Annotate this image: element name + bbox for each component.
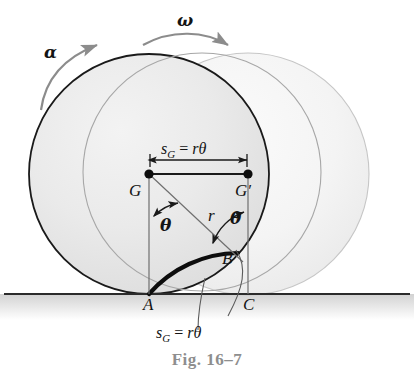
- omega-arrow: [143, 34, 228, 45]
- rolling-disk-diagram: [0, 0, 414, 382]
- label-theta-left: θ: [160, 217, 171, 234]
- label-radius-r: r: [208, 207, 215, 224]
- figure-container: α ω sG = rθ G G′ θ r θ B A C sG = rθ Fig…: [0, 0, 414, 382]
- ground-shadow: [0, 294, 414, 320]
- annotation-displacement-sG: sG = rθ: [161, 141, 206, 160]
- label-alpha: α: [44, 44, 57, 61]
- annotation-arclength-sG: sG = rθ: [156, 325, 201, 344]
- label-point-Gprime: G′: [235, 182, 251, 199]
- sG-value-bottom: rθ: [187, 324, 201, 341]
- label-theta-right: θ: [230, 210, 241, 227]
- label-point-C: C: [243, 296, 254, 313]
- label-point-G: G: [129, 182, 141, 199]
- point-dot-G: [144, 169, 153, 178]
- figure-caption: Fig. 16–7: [0, 350, 414, 370]
- label-point-A: A: [143, 296, 153, 313]
- sG-equals: =: [179, 140, 188, 157]
- point-dot-Gprime: [243, 169, 252, 178]
- sG-value: rθ: [192, 140, 206, 157]
- sG-subscript-bottom: G: [162, 332, 170, 344]
- sG-subscript: G: [167, 148, 175, 160]
- sG-equals-bottom: =: [174, 324, 183, 341]
- label-point-B: B: [222, 250, 232, 267]
- label-omega: ω: [177, 12, 193, 29]
